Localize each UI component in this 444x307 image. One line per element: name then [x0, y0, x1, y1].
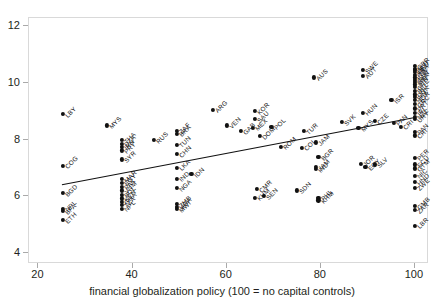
y-tick-mark	[23, 25, 28, 26]
y-tick-mark	[23, 139, 28, 140]
y-tick-label: 10	[0, 76, 20, 88]
x-tick-label: 100	[405, 268, 423, 280]
regression-line	[29, 18, 429, 264]
y-tick-label: 4	[0, 246, 20, 258]
y-tick-mark	[23, 82, 28, 83]
x-tick-label: 40	[125, 268, 137, 280]
x-tick-label: 60	[220, 268, 232, 280]
x-tick-label: 80	[314, 268, 326, 280]
x-tick-label: 20	[31, 268, 43, 280]
chart-figure: LBYCOGBGDNPLBFAETHMYSTHADZAIRNPRYSYRMARE…	[0, 0, 444, 307]
y-tick-label: 12	[0, 19, 20, 31]
x-axis-title: financial globalization policy (100 = no…	[0, 285, 444, 297]
plot-area: LBYCOGBGDNPLBFAETHMYSTHADZAIRNPRYSYRMARE…	[28, 17, 428, 263]
y-tick-mark	[23, 195, 28, 196]
y-tick-label: 6	[0, 189, 20, 201]
y-tick-label: 8	[0, 133, 20, 145]
y-tick-mark	[23, 252, 28, 253]
